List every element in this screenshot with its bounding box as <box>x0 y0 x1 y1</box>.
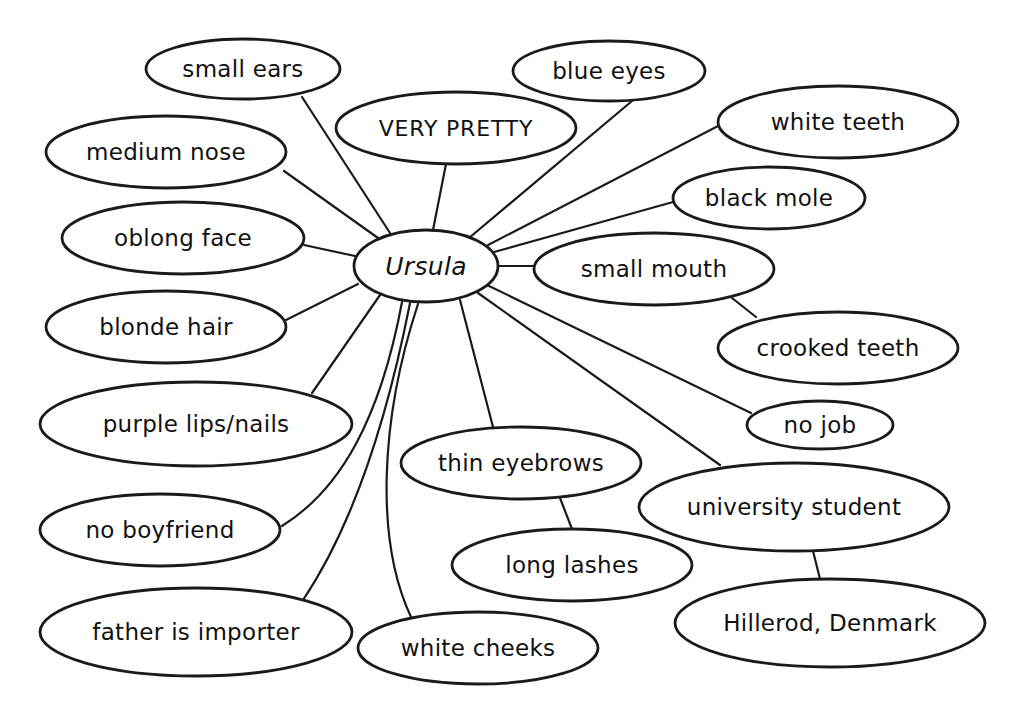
node-label: Ursula <box>385 252 467 281</box>
node-crooked-teeth: crooked teeth <box>718 312 958 384</box>
node-label: father is importer <box>92 619 300 645</box>
node-white-cheeks: white cheeks <box>358 612 598 684</box>
node-long-lashes: long lashes <box>452 529 692 601</box>
node-label: no job <box>784 412 857 438</box>
node-label: university student <box>687 494 901 520</box>
concept-web-diagram: small earsVERY PRETTYblue eyeswhite teet… <box>0 0 1018 721</box>
edge-ursula-to-blonde-hair <box>286 284 358 320</box>
node-blonde-hair: blonde hair <box>46 291 286 363</box>
node-small-ears: small ears <box>146 39 340 99</box>
node-hillerod-denmark: Hillerod, Denmark <box>675 579 985 667</box>
node-label: blonde hair <box>99 314 233 340</box>
edge-thin-eyebrows-to-long-lashes <box>560 498 572 529</box>
node-white-teeth: white teeth <box>718 86 958 158</box>
node-father-is-importer: father is importer <box>40 588 352 676</box>
node-label: medium nose <box>86 139 246 165</box>
node-label: small mouth <box>581 256 728 282</box>
node-label: crooked teeth <box>756 335 919 361</box>
nodes-layer: small earsVERY PRETTYblue eyeswhite teet… <box>40 39 985 684</box>
node-label: oblong face <box>114 225 252 251</box>
node-thin-eyebrows: thin eyebrows <box>401 427 641 499</box>
node-label: small ears <box>182 56 303 82</box>
edge-ursula-to-father-is-importer <box>303 303 410 600</box>
edge-small-mouth-to-crooked-teeth <box>732 298 756 317</box>
edge-ursula-to-very-pretty <box>433 164 446 230</box>
node-medium-nose: medium nose <box>46 116 286 188</box>
node-label: no boyfriend <box>85 517 234 543</box>
edge-ursula-to-thin-eyebrows <box>460 300 493 427</box>
node-no-job: no job <box>747 401 893 449</box>
node-label: blue eyes <box>552 58 666 84</box>
edge-ursula-to-oblong-face <box>304 245 355 256</box>
node-oblong-face: oblong face <box>62 202 304 274</box>
node-very-pretty: VERY PRETTY <box>336 92 576 164</box>
node-label: VERY PRETTY <box>379 116 533 141</box>
node-label: long lashes <box>505 552 638 578</box>
center-node-ursula: Ursula <box>354 230 498 302</box>
node-label: black mole <box>705 185 833 211</box>
node-purple-lips-nails: purple lips/nails <box>40 382 352 466</box>
node-label: thin eyebrows <box>438 450 604 476</box>
node-label: white cheeks <box>401 635 556 661</box>
node-label: purple lips/nails <box>103 411 290 437</box>
node-university-student: university student <box>639 463 949 551</box>
edge-ursula-to-purple-lips-nails <box>312 295 380 393</box>
node-label: Hillerod, Denmark <box>723 610 937 636</box>
node-no-boyfriend: no boyfriend <box>40 494 280 566</box>
node-blue-eyes: blue eyes <box>513 41 705 101</box>
node-small-mouth: small mouth <box>534 233 774 305</box>
edge-university-student-to-hillerod-denmark <box>813 551 820 579</box>
node-label: white teeth <box>771 109 905 135</box>
node-black-mole: black mole <box>673 167 865 229</box>
